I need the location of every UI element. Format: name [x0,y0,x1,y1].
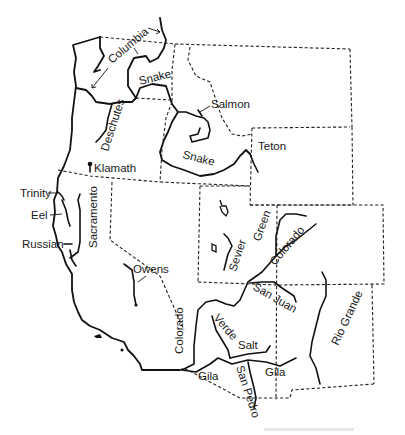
border-mt-east [350,49,352,127]
border-mt-wy [252,127,350,128]
owens-arrow [138,276,146,282]
label-colorado-upper: Colorado [267,224,306,267]
border-or-id [160,102,172,182]
label-klamath: Klamath [94,162,136,174]
trinity-river [58,192,64,200]
wa-or-border-river [76,88,136,104]
columbia-arrow-upper [148,28,160,34]
rio-grande-river [310,272,326,384]
border-canada [175,44,350,49]
sf-bay [70,250,76,266]
label-owens: Owens [133,263,169,275]
label-deschutes: Deschutes [98,97,126,153]
label-gila-west: Gila [198,370,219,382]
label-trinity: Trinity [20,187,51,199]
sevier-lake [212,244,216,252]
border-wy-east [352,127,353,205]
columbia-arrow-mid [134,48,138,54]
border-id-nv [160,182,250,186]
great-salt-lake [220,200,228,216]
label-san-juan: San Juan [251,280,299,315]
channel-islands [94,334,102,338]
eel-river [62,200,70,226]
label-teton: Teton [258,140,286,152]
label-san-pedro: San Pedro [234,364,262,419]
salmon-arrow [200,106,210,112]
label-columbia: Columbia [106,25,151,66]
label-colorado-lower: Colorado [173,307,185,354]
label-rio-grande: Rio Grande [329,288,365,346]
caption-fragment [264,428,354,431]
pacific-coastline [53,37,180,370]
label-russian: Russian [22,238,64,250]
owens-lake [134,303,137,306]
klamath-lake [88,162,93,167]
eel-arrow [50,214,62,215]
salmon-river [178,112,210,142]
puget-sound [94,37,104,72]
border-wa-or [136,98,170,100]
label-salt: Salt [238,339,259,351]
channel-island [121,349,124,352]
label-salmon: Salmon [211,98,250,110]
border-nm-south [257,384,374,398]
western-us-rivers-map: Columbia Snake Salmon Deschutes Snake Te… [0,0,405,435]
label-green: Green [251,209,273,243]
label-gila-east: Gila [265,366,286,378]
label-sacramento: Sacramento [87,186,99,248]
sacramento-river [70,194,80,258]
border-ut-west [198,186,200,282]
border-wy-west [250,128,252,205]
border-id-mt [188,47,252,136]
label-eel: Eel [31,209,48,221]
border-nm-east [372,285,374,384]
label-snake-south: Snake [182,148,217,168]
